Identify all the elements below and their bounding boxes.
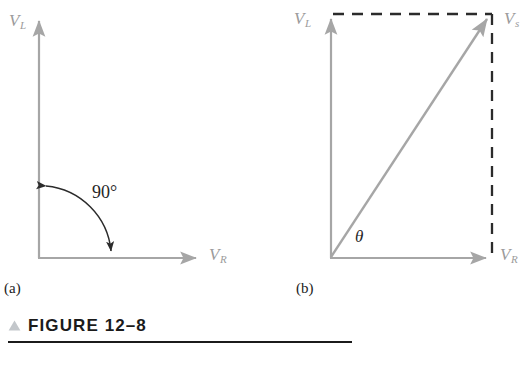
figure-caption-row: FIGURE 12–8 [8,314,353,336]
figure-caption-block: FIGURE 12–8 [8,314,353,343]
figure-caption-rule [8,341,352,343]
label-base: V [500,245,510,264]
label-subscript: L [20,19,26,31]
label-subscript: L [305,17,311,29]
panel-a-vertical-axis-label: VL [9,12,26,31]
panel-a-axes [38,21,196,258]
label-base: V [209,245,219,264]
label-subscript: R [511,253,518,265]
resultant-arrow [331,19,487,257]
panel-b-resultant-label: Vs [504,10,519,29]
panel-a-letter: (a) [4,281,21,296]
label-base: V [294,9,304,28]
panel-b-dashed-rectangle [333,14,492,259]
figure-caption-label: FIGURE 12–8 [28,317,147,334]
figure-12-8: VL VR 90° (a) VL Vs VR θ (b) FIGURE 12–8 [0,0,529,365]
panel-a-angle-label: 90° [92,183,117,201]
panel-a-horizontal-axis-label: VR [209,246,227,265]
label-base: V [9,11,19,30]
panel-b-horizontal-axis-label: VR [500,246,518,265]
label-subscript: R [220,253,227,265]
triangle-up-icon [8,320,21,331]
panel-b-resultant-vector [331,19,487,257]
panel-b-vertical-axis-label: VL [294,10,311,29]
panel-b-theta-label: θ [355,228,363,245]
phasor-diagrams-svg [0,0,529,295]
label-subscript: s [515,17,519,29]
panel-b-letter: (b) [296,281,314,296]
label-base: V [504,9,514,28]
